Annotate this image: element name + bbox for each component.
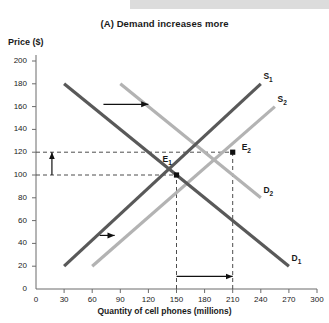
y-tick-label: 80 xyxy=(5,193,27,202)
y-tick-label: 140 xyxy=(5,124,27,133)
x-tick-label: 300 xyxy=(306,295,328,304)
curve-label-D2: D2 xyxy=(263,185,273,197)
y-tick-label: 100 xyxy=(5,170,27,179)
x-tick-label: 90 xyxy=(109,295,131,304)
y-tick-label: 20 xyxy=(5,261,27,270)
y-tick-label: 160 xyxy=(5,102,27,111)
y-tick-label: 40 xyxy=(5,238,27,247)
y-tick-label: 0 xyxy=(5,284,27,293)
x-tick-label: 210 xyxy=(222,295,244,304)
y-tick-label: 60 xyxy=(5,216,27,225)
x-tick-label: 180 xyxy=(194,295,216,304)
point-label-E1: E1 xyxy=(163,154,172,166)
x-tick-label: 30 xyxy=(53,295,75,304)
x-tick-label: 120 xyxy=(137,295,159,304)
x-tick-label: 240 xyxy=(250,295,272,304)
x-tick-label: 270 xyxy=(278,295,300,304)
x-tick-label: 0 xyxy=(25,295,47,304)
curve-label-D1: D1 xyxy=(292,253,302,265)
y-tick-label: 180 xyxy=(5,79,27,88)
curve-label-S2: S2 xyxy=(277,94,286,106)
curve-label-S1: S1 xyxy=(263,71,272,83)
x-tick-label: 150 xyxy=(166,295,188,304)
y-tick-label: 200 xyxy=(5,56,27,65)
x-tick-label: 60 xyxy=(81,295,103,304)
y-tick-label: 120 xyxy=(5,147,27,156)
point-label-E2: E2 xyxy=(242,142,251,154)
point-E2[interactable] xyxy=(230,150,235,155)
point-E1[interactable] xyxy=(174,172,179,177)
